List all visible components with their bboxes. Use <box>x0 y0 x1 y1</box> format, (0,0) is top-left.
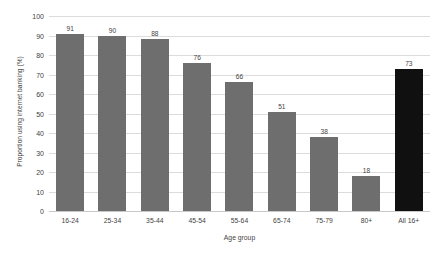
x-tick-label: All 16+ <box>398 217 419 224</box>
y-tick-label: 100 <box>32 13 44 20</box>
y-tick-label: 60 <box>36 91 44 98</box>
x-tick-label: 55-64 <box>231 217 248 224</box>
bar-group: 3875-79 <box>303 16 345 211</box>
bar <box>225 82 253 211</box>
bar-group: 73All 16+ <box>388 16 430 211</box>
bar-group: 6655-64 <box>218 16 260 211</box>
bar <box>141 39 169 211</box>
bar <box>352 176 380 211</box>
bar <box>56 34 84 211</box>
gridline <box>49 211 430 212</box>
bar-group: 9025-34 <box>91 16 133 211</box>
bar-value-label: 51 <box>278 103 285 110</box>
bar <box>310 137 338 211</box>
bar-value-label: 38 <box>320 128 327 135</box>
bar-group: 8835-44 <box>134 16 176 211</box>
y-tick-label: 90 <box>36 32 44 39</box>
bar-value-label: 76 <box>193 54 200 61</box>
bar-value-label: 90 <box>109 27 116 34</box>
plot-area: 0102030405060708090100 9116-249025-34883… <box>49 16 430 211</box>
bar-group: 1880+ <box>345 16 387 211</box>
x-tick-label: 25-34 <box>104 217 121 224</box>
bar-group: 9116-24 <box>49 16 91 211</box>
y-tick-label: 40 <box>36 130 44 137</box>
y-tick-label: 10 <box>36 188 44 195</box>
x-tick-label: 35-44 <box>146 217 163 224</box>
y-tick-label: 30 <box>36 149 44 156</box>
y-axis-title: Proportion using internet banking (%) <box>16 17 23 207</box>
x-tick-label: 80+ <box>361 217 373 224</box>
x-tick-label: 45-54 <box>188 217 205 224</box>
x-tick-label: 65-74 <box>273 217 290 224</box>
x-tick-label: 16-24 <box>61 217 78 224</box>
bar-value-label: 73 <box>405 60 412 67</box>
bar <box>183 63 211 211</box>
bar-value-label: 18 <box>363 167 370 174</box>
bar-value-label: 91 <box>66 25 73 32</box>
bar <box>395 69 423 211</box>
x-axis-title: Age group <box>49 234 430 241</box>
bars-layer: 9116-249025-348835-447645-546655-645165-… <box>49 16 430 211</box>
y-tick-label: 50 <box>36 110 44 117</box>
y-tick-label: 0 <box>40 208 44 215</box>
y-tick-label: 20 <box>36 169 44 176</box>
bar-value-label: 66 <box>236 73 243 80</box>
bar-chart: Proportion using internet banking (%) 01… <box>0 0 440 259</box>
bar-group: 7645-54 <box>176 16 218 211</box>
bar <box>268 112 296 211</box>
y-tick-label: 70 <box>36 71 44 78</box>
y-tick-label: 80 <box>36 52 44 59</box>
x-tick-label: 75-79 <box>315 217 332 224</box>
bar-group: 5165-74 <box>261 16 303 211</box>
bar <box>98 36 126 212</box>
bar-value-label: 88 <box>151 30 158 37</box>
